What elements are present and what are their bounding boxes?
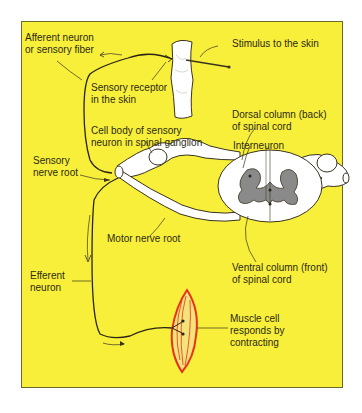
label-ventral-column-2: of spinal cord (232, 274, 291, 286)
label-dorsal-column-2: of spinal cord (232, 121, 291, 133)
label-dorsal-column: Dorsal column (back) (232, 109, 326, 121)
label-sensory-nerve-root: Sensory (33, 155, 70, 167)
label-cell-body-2: neuron in spinal ganglion (91, 137, 202, 149)
label-efferent-neuron-2: neuron (30, 282, 61, 294)
label-efferent-neuron: Efferent (30, 270, 65, 282)
spinal-cord (218, 150, 322, 222)
label-cell-body: Cell body of sensory (91, 125, 182, 137)
label-sensory-nerve-root-2: nerve root (33, 167, 78, 179)
label-motor-nerve-root: Motor nerve root (107, 233, 180, 245)
label-ventral-column: Ventral column (front) (232, 262, 328, 274)
label-stimulus: Stimulus to the skin (232, 38, 319, 50)
label-afferent-neuron-2: or sensory fiber (25, 44, 94, 56)
label-muscle-cell: Muscle cell (230, 313, 279, 325)
label-afferent-neuron: Afferent neuron (25, 32, 94, 44)
reflex-arc-illustration (0, 0, 362, 413)
label-sensory-receptor: Sensory receptor (91, 82, 167, 94)
stimulus-pin (186, 60, 229, 67)
muscle-cell (172, 290, 197, 372)
label-muscle-cell-3: contracting (230, 337, 279, 349)
label-sensory-receptor-2: in the skin (91, 94, 136, 106)
skin-block (171, 40, 193, 118)
label-muscle-cell-2: responds by (230, 325, 284, 337)
label-interneuron: Interneuron (233, 140, 284, 152)
